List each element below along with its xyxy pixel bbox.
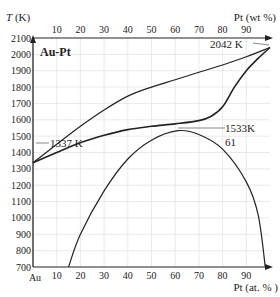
x-axis-top-arrow-icon xyxy=(265,35,273,41)
x-tick-label-bottom: 60 xyxy=(170,270,180,281)
x-axis-top-title: Pt (wt %) xyxy=(234,11,277,24)
annotation-2042k: 2042 K xyxy=(210,38,243,50)
x-tick-label-bottom: 90 xyxy=(241,270,251,281)
x-tick-label-top: 80 xyxy=(218,24,228,35)
y-tick-label: 1300 xyxy=(11,163,31,174)
x-tick-label-top: 10 xyxy=(52,24,62,35)
y-tick-label: 1600 xyxy=(11,114,31,125)
annotation-61: 61 xyxy=(225,136,236,148)
x-tick-label-bottom: 80 xyxy=(218,270,228,281)
x-tick-label-bottom: 10 xyxy=(52,270,62,281)
y-tick-label: 2100 xyxy=(11,33,31,44)
curve-miscibility-gap xyxy=(69,130,266,267)
y-tick-label: 1200 xyxy=(11,180,31,191)
y-tick-label: 900 xyxy=(16,229,31,240)
x-tick-label-bottom: 30 xyxy=(99,270,109,281)
y-tick-label: 1500 xyxy=(11,131,31,142)
x-tick-label-top: 70 xyxy=(194,24,204,35)
grid xyxy=(33,38,270,267)
y-tick-label: 1900 xyxy=(11,65,31,76)
tick-labels: 7008009001000110012001300140015001600170… xyxy=(11,24,251,283)
y-tick-label: 1800 xyxy=(11,82,31,93)
x-tick-label-bottom: 40 xyxy=(123,270,133,281)
y-tick-label: 1000 xyxy=(11,212,31,223)
x-tick-label-bottom: 70 xyxy=(194,270,204,281)
y-axis-unit: (K) xyxy=(12,11,30,24)
x-tick-label-top: 30 xyxy=(99,24,109,35)
leader-2042 xyxy=(253,43,269,45)
chart-title: Au-Pt xyxy=(40,45,71,59)
y-tick-label: 2000 xyxy=(11,49,31,60)
annotation-1337k: 1337 K xyxy=(50,137,83,149)
x-tick-label-top: 60 xyxy=(170,24,180,35)
y-tick-label: 1100 xyxy=(11,196,31,207)
x-tick-label-top: 40 xyxy=(123,24,133,35)
x-axis-bottom-arrow-icon xyxy=(265,264,273,270)
x-tick-label-top: 50 xyxy=(147,24,157,35)
annotation-1533k: 1533K xyxy=(225,122,255,134)
x-tick-label-bottom: Au xyxy=(29,272,41,283)
x-tick-label-top: 90 xyxy=(241,24,251,35)
y-tick-label: 700 xyxy=(16,262,31,273)
y-tick-label: 1400 xyxy=(11,147,31,158)
y-axis-title: T (K) xyxy=(6,11,30,24)
y-tick-label: 1700 xyxy=(11,98,31,109)
x-tick-label-bottom: 50 xyxy=(147,270,157,281)
x-tick-label-top: 20 xyxy=(75,24,85,35)
x-tick-label-bottom: 20 xyxy=(75,270,85,281)
y-tick-label: 800 xyxy=(16,245,31,256)
phase-diagram: 7008009001000110012001300140015001600170… xyxy=(0,0,280,297)
x-axis-bottom-title: Pt (at. % ) xyxy=(233,281,278,294)
